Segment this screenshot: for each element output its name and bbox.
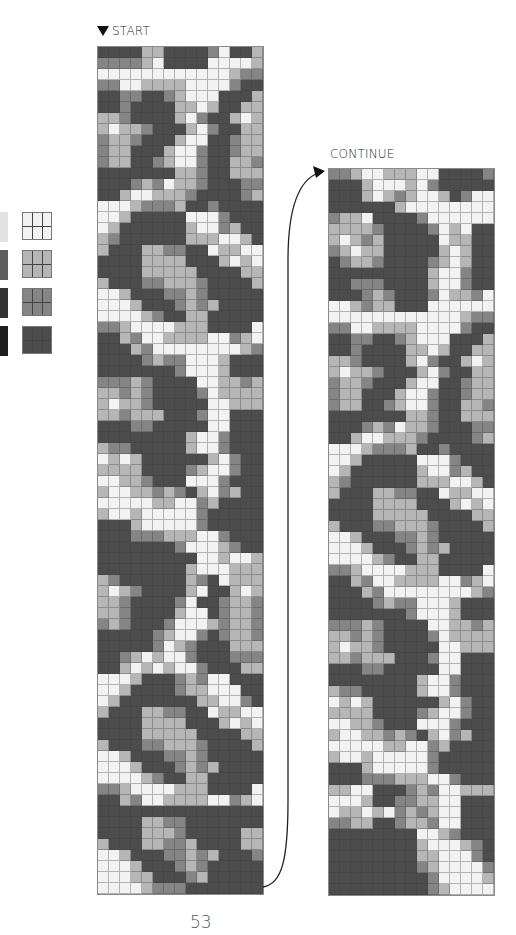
continue-arrow-icon xyxy=(0,0,516,935)
page-number: 53 xyxy=(190,912,212,932)
